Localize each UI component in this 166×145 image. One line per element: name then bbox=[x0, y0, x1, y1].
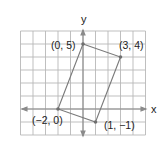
x-axis bbox=[22, 107, 146, 111]
coordinate-plane: y x (0, 5) (3, 4) (1, −1) (−2, 0) bbox=[0, 0, 166, 145]
point-label-0-5: (0, 5) bbox=[51, 39, 76, 51]
y-axis-label: y bbox=[81, 13, 87, 25]
vertex-point bbox=[94, 120, 98, 124]
vertex-point bbox=[56, 107, 60, 111]
x-axis-left-arrow-icon bbox=[22, 107, 27, 111]
vertex-point bbox=[81, 42, 85, 46]
point-label-neg2-0: (−2, 0) bbox=[32, 114, 63, 126]
point-label-3-4: (3, 4) bbox=[119, 39, 144, 51]
x-axis-label: x bbox=[151, 103, 157, 115]
point-label-1-neg1: (1, −1) bbox=[104, 119, 135, 131]
vertex-point bbox=[119, 55, 123, 59]
